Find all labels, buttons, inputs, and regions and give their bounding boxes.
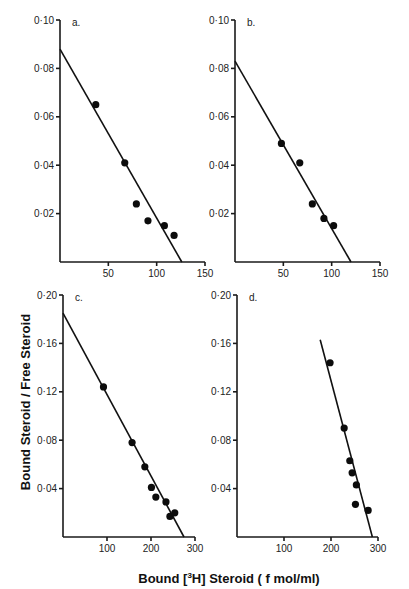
x-axis-title: Bound [3H] Steroid ( f mol/ml) (138, 571, 319, 586)
regression-line (60, 49, 182, 262)
panel-label: b. (247, 17, 255, 28)
regression-line (320, 340, 372, 537)
regression-line (235, 61, 351, 262)
data-point (92, 101, 99, 108)
y-tick-label: 0·08 (211, 435, 231, 446)
y-tick-label: 0·06 (34, 111, 54, 122)
data-point (170, 232, 177, 239)
x-tick-label: 100 (148, 268, 165, 279)
y-tick-label: 0·16 (211, 338, 231, 349)
data-point (296, 159, 303, 166)
data-point (352, 501, 359, 508)
y-tick-label: 0·20 (211, 290, 231, 301)
y-tick-label: 0·02 (209, 208, 229, 219)
data-point (341, 425, 348, 432)
y-tick-label: 0·08 (37, 435, 57, 446)
y-tick-label: 0·08 (34, 63, 54, 74)
x-tick-label: 200 (143, 543, 160, 554)
data-point (278, 140, 285, 147)
panel-label: d. (249, 292, 257, 303)
data-point (161, 222, 168, 229)
data-point (365, 507, 372, 514)
x-tick-label: 50 (278, 268, 290, 279)
x-tick-label: 150 (372, 268, 389, 279)
x-tick-label: 300 (187, 543, 204, 554)
y-tick-label: 0·04 (209, 160, 229, 171)
data-point (141, 463, 148, 470)
x-tick-label: 300 (370, 543, 387, 554)
x-tick-label: 100 (323, 268, 340, 279)
data-point (349, 469, 356, 476)
data-point (133, 200, 140, 207)
data-point (144, 217, 151, 224)
data-point (330, 222, 337, 229)
element-symbol: H (192, 571, 201, 586)
y-tick-label: 0·02 (34, 208, 54, 219)
y-tick-label: 0·06 (209, 111, 229, 122)
y-tick-label: 0·08 (209, 63, 229, 74)
panel-label: a. (72, 17, 80, 28)
data-point (326, 359, 333, 366)
data-point (309, 200, 316, 207)
y-tick-label: 0·20 (37, 290, 57, 301)
y-tick-label: 0·10 (34, 15, 54, 26)
x-tick-label: 100 (99, 543, 116, 554)
panel-a: 501001500·020·040·060·080·10a. (34, 15, 214, 280)
x-axis-title-prefix: Bound (138, 571, 183, 586)
panel-b: 501001500·020·040·060·080·10b. (209, 15, 389, 280)
data-point (121, 159, 128, 166)
panel-d: 1002003000·040·080·120·160·20d. (211, 290, 387, 555)
y-tick-label: 0·12 (37, 386, 57, 397)
data-point (128, 439, 135, 446)
data-point (148, 484, 155, 491)
y-tick-label: 0·12 (211, 386, 231, 397)
data-point (100, 383, 107, 390)
x-tick-label: 200 (323, 543, 340, 554)
y-tick-label: 0·04 (34, 160, 54, 171)
y-axis-title: Bound Steroid / Free Steroid (18, 314, 33, 490)
y-tick-label: 0·04 (211, 483, 231, 494)
data-point (346, 457, 353, 464)
data-point (171, 509, 178, 516)
x-tick-label: 150 (197, 268, 214, 279)
x-axis-title-suffix: Steroid ( f mol/ml) (206, 571, 320, 586)
panel-label: c. (75, 292, 83, 303)
data-point (162, 498, 169, 505)
x-tick-label: 50 (103, 268, 115, 279)
scatchard-plot-figure: 501001500·020·040·060·080·10a. 501001500… (0, 0, 409, 589)
y-tick-label: 0·04 (37, 483, 57, 494)
panel-c: 1002003000·040·080·120·160·20c. (37, 290, 204, 555)
y-tick-label: 0·16 (37, 338, 57, 349)
data-point (320, 215, 327, 222)
data-point (353, 481, 360, 488)
x-tick-label: 100 (276, 543, 293, 554)
y-tick-label: 0·10 (209, 15, 229, 26)
data-point (152, 493, 159, 500)
